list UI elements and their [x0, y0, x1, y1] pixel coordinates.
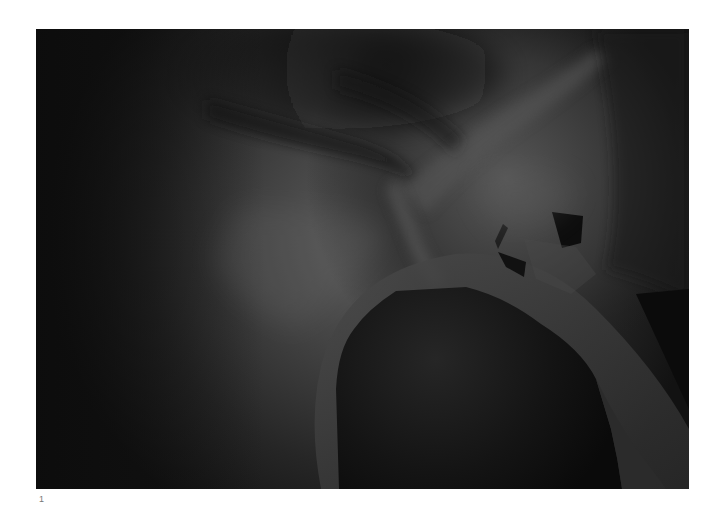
- endoscopic-render-panel: [36, 29, 689, 489]
- lumen-rendering: [36, 29, 689, 489]
- panel-label: 1: [39, 495, 44, 504]
